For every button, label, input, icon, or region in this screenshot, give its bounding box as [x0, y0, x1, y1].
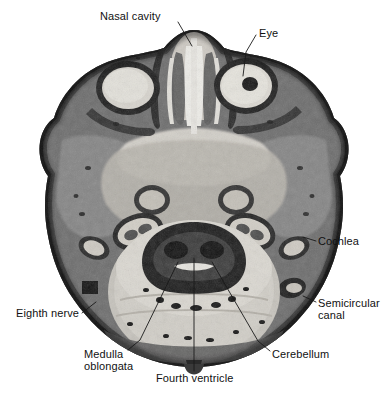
label-layer: Nasal cavity Eye Cochlea Semicircularcan…: [0, 0, 388, 397]
label-nasal-cavity: Nasal cavity: [100, 10, 161, 22]
anatomical-figure: Nasal cavity Eye Cochlea Semicircularcan…: [0, 0, 388, 397]
label-eighth-nerve: Eighth nerve: [16, 307, 79, 319]
label-semicircular-canal-line1: Semicircular: [318, 297, 380, 309]
label-semicircular-canal: Semicircularcanal: [318, 297, 380, 321]
label-semicircular-canal-line2: canal: [318, 309, 345, 321]
label-medulla-oblongata-line2: oblongata: [84, 360, 133, 372]
label-cerebellum: Cerebellum: [272, 348, 329, 360]
label-fourth-ventricle: Fourth ventricle: [156, 372, 233, 384]
label-eye: Eye: [259, 27, 278, 39]
label-cochlea: Cochlea: [318, 235, 359, 247]
label-medulla-oblongata-line1: Medulla: [84, 348, 123, 360]
label-medulla-oblongata: Medullaoblongata: [84, 348, 133, 372]
